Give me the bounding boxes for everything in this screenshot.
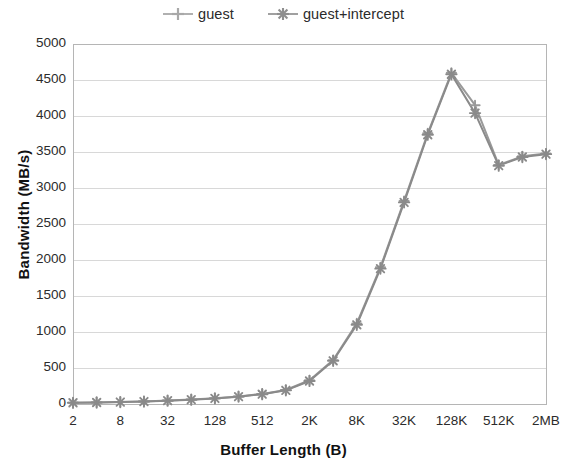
x-axis-tick-label: 32: [142, 413, 194, 428]
x-axis-title: Buffer Length (B): [0, 441, 567, 458]
x-axis-tick-label: 128: [189, 413, 241, 428]
chart-canvas: [0, 0, 567, 467]
y-axis-tick-label: 500: [18, 359, 66, 374]
y-axis-tick-label: 4500: [18, 71, 66, 86]
x-axis-tick-label: 128K: [425, 413, 477, 428]
y-axis-title: Bandwidth (MB/s): [15, 100, 32, 330]
x-axis-tick-label: 8K: [331, 413, 383, 428]
gridlines: [73, 44, 546, 404]
x-axis-tick-label: 2K: [284, 413, 336, 428]
x-axis-tick-label: 8: [94, 413, 146, 428]
x-axis-tick-label: 512: [236, 413, 288, 428]
y-axis-tick-label: 0: [18, 395, 66, 410]
x-axis-tick-label: 512K: [473, 413, 525, 428]
x-axis-tick-label: 32K: [378, 413, 430, 428]
x-axis-tick-label: 2: [47, 413, 99, 428]
x-axis-tick-label: 2MB: [520, 413, 567, 428]
y-axis-tick-label: 5000: [18, 35, 66, 50]
data-series: [68, 68, 551, 408]
